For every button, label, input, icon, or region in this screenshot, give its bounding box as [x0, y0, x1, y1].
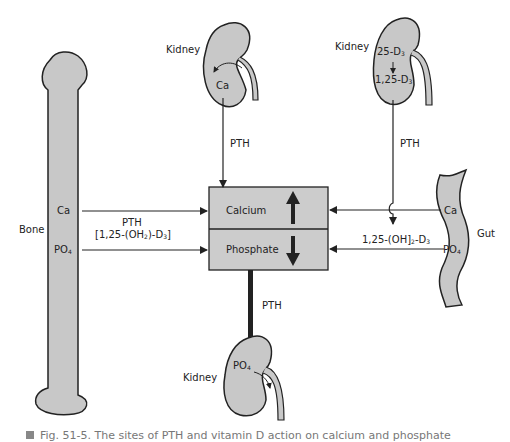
gut-icon — [437, 170, 469, 307]
figure-caption: Fig. 51-5. The sites of PTH and vitamin … — [26, 429, 451, 442]
gut-ca-label: Ca — [444, 205, 457, 217]
bone-vitamin-d-label: [1,25-(OH2)-D3] — [95, 229, 171, 243]
kidney-top-left-label: Kidney — [166, 44, 200, 56]
calcium-label: Calcium — [226, 205, 266, 217]
bone-label: Bone — [19, 224, 44, 236]
central-box — [209, 187, 328, 270]
pth-label-left: PTH — [230, 138, 250, 150]
phosphate-label: Phosphate — [226, 244, 279, 256]
kidney-25-d3: 25-D3 — [377, 46, 405, 60]
bone-pth-label: PTH — [122, 217, 142, 229]
pth-label-bottom: PTH — [262, 300, 282, 312]
kidney-bottom-label: Kidney — [183, 372, 217, 384]
pth-label-right: PTH — [400, 138, 420, 150]
kidney-top-left-ca: Ca — [216, 80, 229, 92]
gut-po4-label: PO4 — [443, 244, 461, 258]
vitamin-d-label: 1,25-(OH]2-D3 — [362, 234, 430, 248]
kidney-top-right-label: Kidney — [335, 41, 369, 53]
kidney-top-left-icon — [204, 23, 258, 107]
kidney-125-d3: 1,25-D3 — [375, 74, 412, 88]
kidney-bottom-icon — [224, 336, 284, 420]
bone-ca-label: Ca — [57, 205, 70, 217]
gut-label: Gut — [477, 228, 495, 240]
arrow-kidney-d3-to-gut — [389, 100, 393, 224]
caption-marker-icon — [26, 431, 34, 439]
kidney-top-right-icon — [373, 18, 432, 105]
kidney-bottom-po4: PO4 — [233, 360, 251, 374]
bone-po4-label: PO4 — [54, 244, 72, 258]
